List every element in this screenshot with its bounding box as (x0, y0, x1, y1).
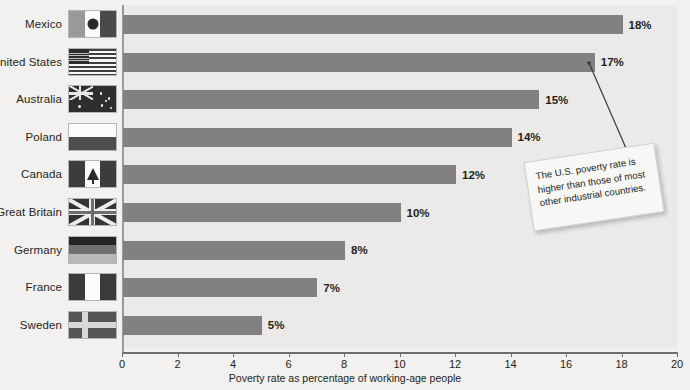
country-label: Australia (0, 81, 62, 118)
country-label: United States (0, 44, 62, 81)
bar-value-label: 18% (629, 15, 652, 34)
country-label: Great Britain (0, 194, 62, 231)
callout-text: The U.S. poverty rate is higher than tho… (535, 156, 647, 208)
x-axis-title: Poverty rate as percentage of working-ag… (0, 372, 690, 384)
flag-canada-icon (68, 160, 117, 188)
bar (123, 278, 317, 297)
country-label: Poland (0, 119, 62, 156)
x-tick (289, 352, 290, 357)
x-tick-label: 14 (491, 358, 531, 370)
flag-mexico-icon (68, 10, 117, 38)
bar-value-label: 8% (351, 241, 368, 260)
bar-value-label: 14% (518, 128, 541, 147)
chart-row: Mexico18% (0, 6, 690, 43)
x-tick-label: 18 (602, 358, 642, 370)
x-tick-label: 0 (102, 358, 142, 370)
country-label: France (0, 269, 62, 306)
bar (123, 53, 595, 72)
x-tick (233, 352, 234, 357)
x-tick (622, 352, 623, 357)
chart-row: United States17% (0, 44, 690, 81)
x-tick-label: 2 (158, 358, 198, 370)
x-tick-label: 10 (380, 358, 420, 370)
country-label: Germany (0, 232, 62, 269)
x-tick-label: 8 (324, 358, 364, 370)
chart-row: Australia15% (0, 81, 690, 118)
chart-row: Germany8% (0, 232, 690, 269)
bar (123, 203, 401, 222)
country-label: Mexico (0, 6, 62, 43)
bar (123, 15, 623, 34)
x-tick (511, 352, 512, 357)
bar-value-label: 10% (407, 203, 430, 222)
bar-value-label: 5% (268, 316, 285, 335)
country-label: Sweden (0, 307, 62, 344)
bar-value-label: 7% (323, 278, 340, 297)
bar (123, 316, 262, 335)
x-tick (122, 352, 123, 357)
bar-value-label: 12% (462, 165, 485, 184)
flag-great-britain-icon (68, 198, 117, 226)
chart-row: France7% (0, 269, 690, 306)
flag-united-states-icon (68, 48, 117, 76)
flag-sweden-icon (68, 311, 117, 339)
x-tick-label: 6 (269, 358, 309, 370)
x-tick (677, 352, 678, 357)
poverty-rate-bar-chart: Mexico18%United States17%Australia15%Pol… (0, 0, 690, 390)
flag-australia-icon (68, 85, 117, 113)
x-tick (455, 352, 456, 357)
x-tick (566, 352, 567, 357)
x-tick (400, 352, 401, 357)
chart-row: Poland14% (0, 119, 690, 156)
x-tick (178, 352, 179, 357)
bar (123, 90, 539, 109)
flag-germany-icon (68, 236, 117, 264)
flag-poland-icon (68, 123, 117, 151)
x-tick-label: 4 (213, 358, 253, 370)
bar (123, 128, 512, 147)
chart-row: Sweden5% (0, 307, 690, 344)
country-label: Canada (0, 156, 62, 193)
bar-value-label: 17% (601, 53, 624, 72)
flag-france-icon (68, 273, 117, 301)
x-tick-label: 20 (657, 358, 690, 370)
bar-value-label: 15% (545, 90, 568, 109)
x-tick (344, 352, 345, 357)
bar (123, 241, 345, 260)
bar (123, 165, 456, 184)
x-tick-label: 16 (546, 358, 586, 370)
x-tick-label: 12 (435, 358, 475, 370)
